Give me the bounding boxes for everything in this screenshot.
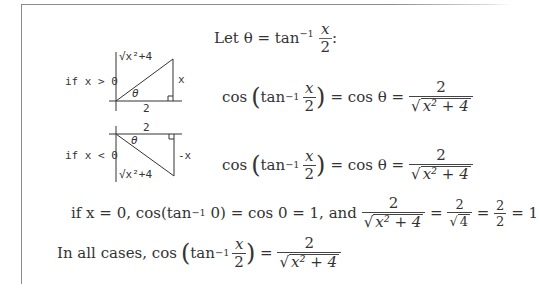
conclusion-line: In all cases, cos ( tan−1 x2 ) = 2√x² + … bbox=[57, 236, 341, 270]
paren-open: ( bbox=[251, 153, 260, 177]
eq2: = bbox=[472, 204, 494, 222]
result-radicand: x² + 4 bbox=[289, 254, 339, 270]
frac1-num: 2 bbox=[387, 196, 401, 212]
result-radicand: x² + 4 bbox=[421, 98, 471, 114]
sqrt-icon: √ bbox=[449, 215, 457, 228]
paren-close: ) bbox=[316, 85, 325, 109]
frac2-den: √4 bbox=[447, 212, 472, 228]
arg-fraction: x2 bbox=[303, 81, 317, 114]
sqrt-icon: √ bbox=[279, 255, 289, 270]
case-neg-equation: cos ( tan−1 x2 ) = cos θ = 2√x² + 4 bbox=[222, 148, 473, 182]
let-num: x bbox=[319, 22, 331, 38]
equation-mid: = cos θ = bbox=[330, 156, 404, 174]
paren-close: ) bbox=[316, 153, 325, 177]
conclusion-prefix: In all cases, cos bbox=[57, 244, 177, 262]
arg-num: x bbox=[303, 149, 315, 165]
sqrt-icon: √ bbox=[411, 167, 421, 182]
arg-den: 2 bbox=[303, 97, 317, 114]
result-fraction: 2√x² + 4 bbox=[409, 80, 473, 114]
let-fraction: x2 bbox=[319, 22, 333, 55]
case-zero-text2: 0) = cos 0 = 1, and bbox=[206, 204, 362, 222]
result-num: 2 bbox=[302, 236, 316, 252]
case-pos-equation: cos ( tan−1 x2 ) = cos θ = 2√x² + 4 bbox=[222, 80, 473, 114]
cos-label: cos bbox=[222, 88, 247, 106]
case-zero-frac2: 2√4 bbox=[447, 198, 472, 228]
frac1-radicand: x² + 4 bbox=[373, 214, 423, 230]
diagram-pos-hypotenuse: √x²+4 bbox=[119, 50, 152, 63]
case-zero-text1: if x = 0, cos(tan bbox=[71, 204, 191, 222]
diagram-neg-opposite: -x bbox=[178, 149, 191, 162]
tan-label: tan bbox=[261, 88, 286, 106]
sqrt-icon: √ bbox=[364, 215, 374, 230]
tan-label: tan bbox=[261, 156, 286, 174]
cos-label: cos bbox=[222, 156, 247, 174]
conclusion-eq: = bbox=[255, 244, 277, 262]
sqrt-icon: √ bbox=[411, 99, 421, 114]
result-den: √x² + 4 bbox=[409, 96, 473, 114]
arg-den: 2 bbox=[303, 165, 317, 182]
result-fraction: 2√x² + 4 bbox=[409, 148, 473, 182]
case-zero-frac1: 2√x² + 4 bbox=[362, 196, 426, 230]
let-den: 2 bbox=[319, 38, 333, 55]
frac3-den: 2 bbox=[494, 213, 506, 228]
arg-num: x bbox=[303, 81, 315, 97]
let-suffix: : bbox=[332, 29, 337, 47]
frac2-radicand: 4 bbox=[458, 214, 470, 228]
let-statement: Let θ = tan−1 x2: bbox=[214, 22, 337, 55]
arg-den: 2 bbox=[232, 253, 246, 270]
frac1-den: √x² + 4 bbox=[362, 212, 426, 230]
eq1: = bbox=[425, 204, 447, 222]
result-radicand: x² + 4 bbox=[421, 166, 471, 182]
diagram-pos-adjacent: 2 bbox=[143, 102, 150, 115]
case-zero-line: if x = 0, cos(tan−1 0) = cos 0 = 1, and … bbox=[71, 196, 538, 230]
arg-fraction: x2 bbox=[303, 149, 317, 182]
result-num: 2 bbox=[434, 80, 448, 96]
result-fraction: 2√x² + 4 bbox=[277, 236, 341, 270]
frac2-num: 2 bbox=[454, 198, 466, 212]
diagram-pos-angle: θ bbox=[132, 87, 139, 100]
document-frame-top bbox=[21, 4, 511, 5]
let-prefix: Let θ = tan bbox=[214, 29, 299, 47]
case-zero-frac3: 22 bbox=[494, 199, 506, 228]
result-num: 2 bbox=[434, 148, 448, 164]
tan-label: tan bbox=[190, 244, 215, 262]
result-den: √x² + 4 bbox=[277, 252, 341, 270]
result-den: √x² + 4 bbox=[409, 164, 473, 182]
paren-open: ( bbox=[251, 85, 260, 109]
equation-mid: = cos θ = bbox=[330, 88, 404, 106]
diagram-pos-opposite: x bbox=[178, 73, 185, 86]
let-sup: −1 bbox=[299, 28, 313, 39]
diagram-neg-angle: θ bbox=[131, 134, 138, 147]
eq3: = 1 bbox=[506, 204, 538, 222]
document-frame-left bbox=[21, 4, 22, 284]
diagram-neg-hypotenuse: √x²+4 bbox=[119, 168, 152, 181]
paren-close: ) bbox=[246, 241, 255, 265]
frac3-num: 2 bbox=[494, 199, 506, 213]
arg-num: x bbox=[233, 237, 245, 253]
paren-open: ( bbox=[181, 241, 190, 265]
arg-fraction: x2 bbox=[232, 237, 246, 270]
diagram-neg-adjacent: 2 bbox=[143, 121, 150, 134]
